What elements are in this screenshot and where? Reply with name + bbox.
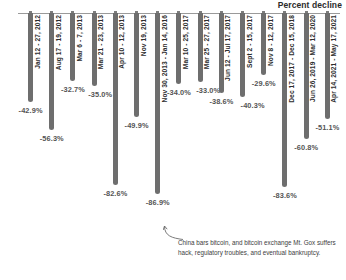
bar-value-label: -35.0%: [88, 90, 112, 99]
bar-date-label: Nov 8 - 12, 2017: [267, 15, 274, 66]
bar: [28, 13, 33, 102]
bar-value-label: -40.3%: [241, 101, 265, 110]
bar-value-label: -32.7%: [61, 85, 85, 94]
bar-value-label: -42.9%: [19, 106, 43, 115]
bar-value-label: -29.6%: [252, 79, 276, 88]
annotation-text: China bars bitcoin, and bitcoin exchange…: [178, 238, 336, 258]
bar: [92, 13, 97, 86]
bar-value-label: -33.0%: [196, 86, 220, 95]
bar-date-label: Apr 10 - 12, 2013: [118, 15, 125, 69]
bar-value-label: -56.3%: [40, 134, 64, 143]
bar-value-label: -82.6%: [103, 189, 127, 198]
bar-value-label: -83.6%: [273, 191, 297, 200]
bar-date-label: Mar 21 - 23, 2013: [97, 15, 104, 69]
bar-date-label: Jun 12 - Jul 17, 2017: [224, 15, 231, 81]
bar: [261, 13, 266, 75]
bar-date-label: Sept 2 - 15, 2017: [246, 15, 253, 68]
bar: [176, 13, 181, 84]
bar-value-label: -51.1%: [315, 123, 339, 132]
bar: [70, 13, 75, 81]
bar-date-label: Mar 10 - 25, 2017: [182, 15, 189, 69]
bar-date-label: Mar 25 - 27, 2017: [203, 15, 210, 69]
bar: [155, 13, 160, 194]
bar-value-label: -49.9%: [125, 121, 149, 130]
bar: [198, 13, 203, 82]
bar-date-label: Mar 6 - 7, 2013: [76, 15, 83, 62]
bar: [134, 13, 139, 117]
bar-date-label: Aug 17 - 19, 2012: [55, 15, 62, 70]
bar-date-label: Apr 14, 2021 - May 17, 2021: [330, 15, 337, 103]
bar-value-label: -38.6%: [209, 97, 233, 106]
bar-date-label: Jan 12 - 27, 2012: [34, 15, 41, 69]
bar-value-label: -86.9%: [146, 198, 170, 207]
bar: [49, 13, 54, 130]
bar-date-label: Dec 17, 2017 - Dec 15, 2018: [288, 15, 295, 103]
bar: [304, 13, 309, 139]
bar: [240, 13, 245, 97]
bar-value-label: -34.0%: [167, 88, 191, 97]
percent-decline-chart: Percent decline Jan 12 - 27, 2012-42.9%A…: [0, 0, 346, 280]
bar: [282, 13, 287, 187]
bar-value-label: -60.8%: [294, 143, 318, 152]
bar-date-label: Nov 19, 2013: [140, 15, 147, 56]
bar-date-label: Jun 26, 2019 - Mar 12, 2020: [309, 15, 316, 102]
